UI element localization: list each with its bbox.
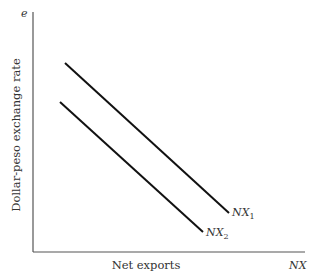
nx1-label: NX1	[231, 206, 255, 221]
nx1-curve	[65, 63, 229, 213]
x-axis-symbol: NX	[288, 259, 308, 272]
nx-diagram: e Dollar-peso exchange rate Net exports …	[0, 0, 318, 279]
nx2-curve	[60, 102, 203, 232]
y-axis-label: Dollar-peso exchange rate	[9, 58, 23, 212]
x-axis-label: Net exports	[112, 258, 181, 272]
nx2-label: NX2	[205, 226, 229, 241]
y-axis-symbol: e	[21, 7, 28, 20]
